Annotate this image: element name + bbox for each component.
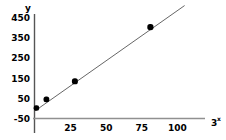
scatter-plot: y 450 350 250 150 50 -50 25 50 75 100 3 … bbox=[0, 0, 226, 140]
y-tick-label-150: 150 bbox=[11, 74, 30, 84]
data-point-marker bbox=[72, 78, 78, 84]
chart-container: y 450 350 250 150 50 -50 25 50 75 100 3 … bbox=[0, 0, 226, 140]
y-axis-title: y bbox=[25, 3, 31, 13]
y-tick-label-250: 250 bbox=[11, 53, 30, 63]
data-point-marker bbox=[147, 24, 153, 30]
y-tick-label-450: 450 bbox=[11, 13, 30, 23]
y-tick-label-neg50: -50 bbox=[14, 114, 30, 124]
y-tick-label-50: 50 bbox=[17, 94, 30, 104]
x-tick-label-100: 100 bbox=[168, 123, 187, 133]
x-tick-label-25: 25 bbox=[64, 123, 77, 133]
y-tick-label-350: 350 bbox=[11, 33, 30, 43]
data-point-marker bbox=[34, 105, 40, 111]
x-axis-title-exponent: x bbox=[217, 115, 221, 122]
x-tick-label-75: 75 bbox=[136, 123, 149, 133]
data-point-marker bbox=[44, 97, 50, 103]
x-tick-label-50: 50 bbox=[100, 123, 113, 133]
